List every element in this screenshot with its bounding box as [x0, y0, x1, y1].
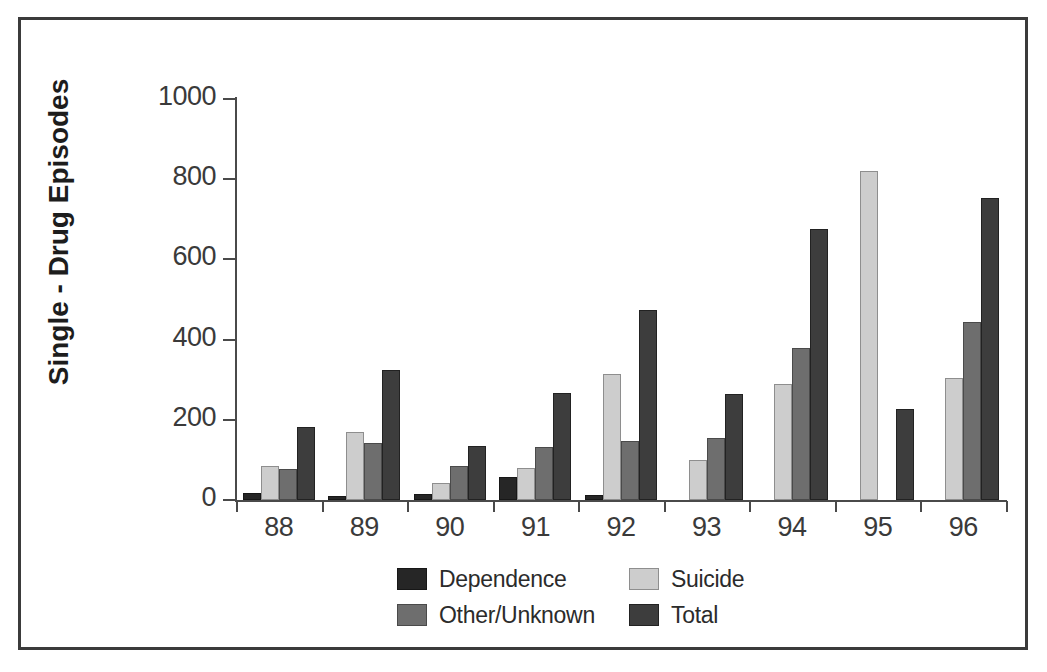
y-tick-0 — [223, 499, 236, 501]
bar-90-dependence — [414, 494, 432, 500]
y-tick-label-wrap-1000: 1000 — [116, 81, 216, 111]
bar-96-other-unknown — [963, 322, 981, 500]
bar-92-total — [639, 310, 657, 500]
bar-95-suicide — [860, 171, 878, 500]
x-tick-96 — [920, 501, 922, 512]
x-tick-end — [1006, 501, 1008, 512]
bar-91-suicide — [517, 468, 535, 500]
bar-89-total — [382, 370, 400, 500]
legend-item-total: Total — [629, 597, 718, 633]
bar-group-92 — [578, 99, 664, 500]
y-tick-label-wrap-200: 200 — [116, 402, 216, 432]
plot-area — [236, 99, 1006, 500]
bar-91-total — [553, 393, 571, 500]
x-tick-label-96: 96 — [923, 512, 1003, 543]
y-tick-label-400: 400 — [126, 322, 216, 353]
y-tick-label-wrap-400: 400 — [116, 322, 216, 352]
y-tick-800 — [223, 178, 236, 180]
x-tick-label-90: 90 — [410, 512, 490, 543]
y-tick-label-wrap-0: 0 — [116, 482, 216, 512]
legend-swatch-dependence-icon — [397, 568, 427, 590]
bar-94-suicide — [774, 384, 792, 500]
figure-border: Single - Drug Episodes 02004006008001000… — [18, 17, 1028, 650]
bar-91-other-unknown — [535, 447, 553, 500]
x-tick-94 — [749, 501, 751, 512]
bar-group-96 — [920, 99, 1006, 500]
legend-label-suicide: Suicide — [671, 566, 744, 593]
y-axis-title: Single - Drug Episodes — [43, 22, 75, 442]
x-tick-91 — [493, 501, 495, 512]
y-tick-400 — [223, 339, 236, 341]
bar-group-88 — [236, 99, 322, 500]
x-tick-88 — [236, 501, 238, 512]
legend-item-dependence: Dependence — [397, 561, 566, 597]
chart-legend: Dependence Suicide Other/Unknown Total — [397, 561, 797, 633]
x-tick-90 — [407, 501, 409, 512]
x-tick-label-92: 92 — [581, 512, 661, 543]
chart-figure: Single - Drug Episodes 02004006008001000… — [0, 0, 1047, 672]
legend-label-other-unknown: Other/Unknown — [439, 602, 595, 629]
bar-group-90 — [407, 99, 493, 500]
bar-93-suicide — [689, 460, 707, 500]
y-tick-label-200: 200 — [126, 402, 216, 433]
x-tick-label-94: 94 — [752, 512, 832, 543]
bar-93-other-unknown — [707, 438, 725, 500]
legend-label-total: Total — [671, 602, 718, 629]
bar-94-other-unknown — [792, 348, 810, 500]
bar-90-total — [468, 446, 486, 500]
bar-93-total — [725, 394, 743, 500]
x-axis-line — [235, 500, 1007, 502]
legend-label-dependence: Dependence — [439, 566, 566, 593]
y-tick-600 — [223, 258, 236, 260]
legend-swatch-total-icon — [629, 604, 659, 626]
x-tick-label-93: 93 — [667, 512, 747, 543]
x-tick-95 — [835, 501, 837, 512]
y-tick-200 — [223, 419, 236, 421]
bar-group-94 — [749, 99, 835, 500]
x-tick-93 — [664, 501, 666, 512]
x-tick-89 — [322, 501, 324, 512]
y-tick-label-800: 800 — [126, 161, 216, 192]
x-tick-label-95: 95 — [838, 512, 918, 543]
bar-91-dependence — [499, 477, 517, 500]
bar-group-93 — [664, 99, 750, 500]
y-tick-1000 — [223, 98, 236, 100]
bar-90-other-unknown — [450, 466, 468, 500]
y-tick-label-1000: 1000 — [126, 81, 216, 112]
legend-row-1: Dependence Suicide — [397, 561, 797, 597]
bar-94-total — [810, 229, 828, 500]
bar-88-other-unknown — [279, 469, 297, 500]
legend-item-suicide: Suicide — [629, 561, 744, 597]
bar-group-89 — [322, 99, 408, 500]
x-tick-label-91: 91 — [495, 512, 575, 543]
bar-96-suicide — [945, 378, 963, 500]
bar-95-total — [896, 409, 914, 500]
y-tick-label-0: 0 — [126, 482, 216, 513]
bar-88-dependence — [243, 493, 261, 500]
bar-96-total — [981, 198, 999, 500]
bar-92-dependence — [585, 495, 603, 500]
bar-89-dependence — [328, 496, 346, 500]
y-tick-label-wrap-600: 600 — [116, 241, 216, 271]
legend-item-other-unknown: Other/Unknown — [397, 597, 595, 633]
bar-90-suicide — [432, 483, 450, 500]
y-tick-label-wrap-800: 800 — [116, 161, 216, 191]
y-tick-label-600: 600 — [126, 241, 216, 272]
x-tick-92 — [578, 501, 580, 512]
bar-group-95 — [835, 99, 921, 500]
legend-swatch-suicide-icon — [629, 568, 659, 590]
legend-row-2: Other/Unknown Total — [397, 597, 797, 633]
bar-89-suicide — [346, 432, 364, 500]
bar-88-suicide — [261, 466, 279, 500]
bar-92-other-unknown — [621, 441, 639, 500]
x-tick-label-88: 88 — [239, 512, 319, 543]
legend-swatch-other-unknown-icon — [397, 604, 427, 626]
bar-89-other-unknown — [364, 443, 382, 500]
x-tick-label-89: 89 — [324, 512, 404, 543]
bar-92-suicide — [603, 374, 621, 500]
bar-group-91 — [493, 99, 579, 500]
bar-88-total — [297, 427, 315, 500]
